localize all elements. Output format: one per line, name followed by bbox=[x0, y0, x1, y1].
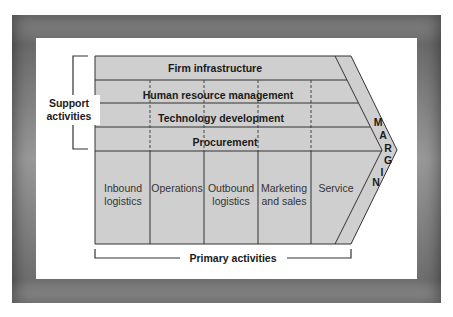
support-row-hrm: Human resource management bbox=[143, 89, 294, 101]
value-chain-diagram: Firm infrastructure Human resource manag… bbox=[0, 0, 453, 317]
primary-col-inbound-line1: Inbound bbox=[104, 182, 142, 194]
primary-col-operations: Operations bbox=[151, 182, 202, 194]
margin-letter: A bbox=[379, 129, 387, 141]
primary-col-outbound-line2: logistics bbox=[212, 195, 249, 207]
margin-letter: I bbox=[381, 166, 384, 178]
support-row-technology: Technology development bbox=[158, 112, 284, 124]
primary-bracket bbox=[95, 249, 180, 258]
primary-label: Primary activities bbox=[190, 252, 277, 264]
primary-col-outbound-line1: Outbound bbox=[208, 182, 254, 194]
support-label-line1: Support bbox=[49, 97, 90, 109]
primary-col-service: Service bbox=[318, 182, 353, 194]
margin-letter: R bbox=[384, 142, 392, 154]
primary-col-marketing-line1: Marketing bbox=[261, 182, 307, 194]
primary-bracket bbox=[287, 249, 351, 258]
margin-chevron bbox=[95, 56, 397, 244]
margin-letter: N bbox=[372, 176, 380, 188]
primary-col-marketing-line2: and sales bbox=[262, 195, 307, 207]
margin-letter: M bbox=[374, 116, 383, 128]
support-row-firm-infrastructure: Firm infrastructure bbox=[168, 62, 262, 74]
primary-col-inbound-line2: logistics bbox=[104, 195, 141, 207]
margin-letter: G bbox=[384, 154, 392, 166]
support-row-procurement: Procurement bbox=[193, 136, 258, 148]
support-label-line2: activities bbox=[47, 110, 92, 122]
